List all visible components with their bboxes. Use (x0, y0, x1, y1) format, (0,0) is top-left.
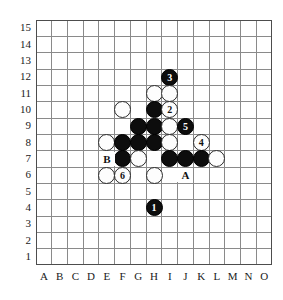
stone-f6-white-6[interactable]: 6 (114, 167, 131, 184)
stone-number: 3 (162, 70, 177, 85)
stone-g9-black[interactable] (130, 118, 147, 135)
row-label-14: 14 (9, 39, 31, 50)
stone-i12-black-3[interactable]: 3 (161, 69, 178, 86)
stone-h8-black[interactable] (146, 134, 163, 151)
stone-number: 2 (162, 102, 177, 117)
stone-h9-black[interactable] (146, 118, 163, 135)
column-label-E: E (99, 271, 115, 282)
stone-k7-black[interactable] (193, 150, 210, 167)
stone-h4-black-1[interactable]: 1 (146, 199, 163, 216)
marker-a[interactable]: A (177, 168, 193, 182)
row-label-2: 2 (9, 235, 31, 246)
row-label-5: 5 (9, 186, 31, 197)
column-label-I: I (162, 271, 178, 282)
row-label-8: 8 (9, 137, 31, 148)
stone-h11-white[interactable] (146, 85, 163, 102)
column-label-L: L (209, 271, 225, 282)
go-board-diagram: 151413121110987654321 ABCDEFGHIJKLMNO 32… (0, 0, 283, 300)
stone-h6-white[interactable] (146, 167, 163, 184)
row-label-7: 7 (9, 153, 31, 164)
row-label-11: 11 (9, 88, 31, 99)
column-label-J: J (177, 271, 193, 282)
row-label-4: 4 (9, 202, 31, 213)
stone-number: 5 (178, 119, 193, 134)
column-label-K: K (193, 271, 209, 282)
column-label-C: C (67, 271, 83, 282)
row-label-13: 13 (9, 55, 31, 66)
stone-f8-black[interactable] (114, 134, 131, 151)
row-label-1: 1 (9, 251, 31, 262)
column-label-O: O (256, 271, 272, 282)
row-label-6: 6 (9, 169, 31, 180)
column-label-H: H (146, 271, 162, 282)
row-label-12: 12 (9, 71, 31, 82)
stone-number: 6 (115, 168, 130, 183)
row-label-15: 15 (9, 22, 31, 33)
column-label-M: M (225, 271, 241, 282)
stone-number: 4 (194, 135, 209, 150)
column-label-D: D (83, 271, 99, 282)
stone-i10-white-2[interactable]: 2 (161, 101, 178, 118)
column-label-N: N (240, 271, 256, 282)
row-label-10: 10 (9, 104, 31, 115)
column-label-A: A (36, 271, 52, 282)
stone-h10-black[interactable] (146, 101, 163, 118)
column-label-B: B (52, 271, 68, 282)
column-label-G: G (130, 271, 146, 282)
stone-g8-black[interactable] (130, 134, 147, 151)
marker-b[interactable]: B (99, 152, 115, 166)
row-label-3: 3 (9, 218, 31, 229)
stone-e6-white[interactable] (98, 167, 115, 184)
stone-g7-white[interactable] (130, 150, 147, 167)
column-label-F: F (115, 271, 131, 282)
row-label-9: 9 (9, 120, 31, 131)
stone-j9-black-5[interactable]: 5 (177, 118, 194, 135)
stone-number: 1 (147, 200, 162, 215)
stone-k8-white-4[interactable]: 4 (193, 134, 210, 151)
stone-i9-white[interactable] (161, 118, 178, 135)
